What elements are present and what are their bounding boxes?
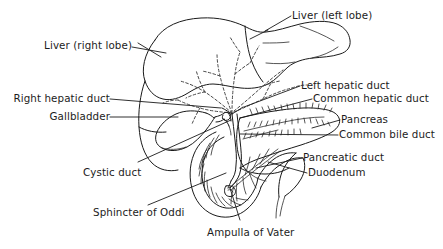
leader-sphincter-of-oddi [148,173,226,205]
label-liver-right-lobe: Liver (right lobe) [28,40,132,51]
duodenum-outline [190,132,305,218]
leader-liver-left-lobe [265,16,291,31]
label-pancreatic-duct: Pancreatic duct [303,152,384,163]
label-right-hepatic-duct: Right hepatic duct [4,93,110,104]
label-gallbladder: Gallbladder [4,111,110,122]
label-pancreas: Pancreas [341,114,388,125]
leader-left-hepatic-duct [244,86,300,107]
label-cystic-duct: Cystic duct [83,167,141,178]
label-ampulla-of-vater: Ampulla of Vater [207,227,294,238]
label-sphincter-of-oddi: Sphincter of Oddi [93,207,185,218]
label-duodenum: Duodenum [308,167,366,178]
leader-pancreas [312,120,340,128]
leader-common-bile-duct [240,134,338,135]
leader-right-hepatic-duct [110,99,221,108]
biliary-anatomy-figure: Liver (right lobe) Liver (left lobe) Lef… [0,0,443,249]
label-liver-left-lobe: Liver (left lobe) [292,10,372,21]
leader-duodenum [268,162,307,173]
label-common-hepatic-duct: Common hepatic duct [313,93,429,104]
label-common-bile-duct: Common bile duct [339,129,435,140]
label-left-hepatic-duct: Left hepatic duct [301,80,390,91]
